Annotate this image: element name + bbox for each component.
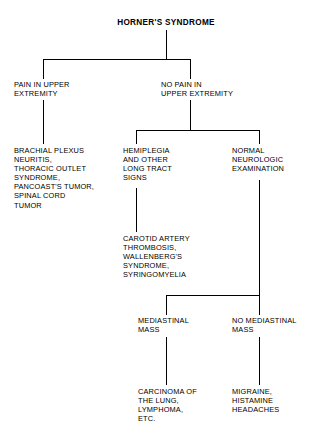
node-no-mediastinal-mass: NO MEDIASTINAL MASS: [232, 316, 327, 334]
node-carcinoma-of-the-lung: CARCINOMA OF THE LUNG, LYMPHOMA, ETC.: [138, 387, 233, 423]
connector-level3-left-drop: [166, 295, 167, 315]
node-no-pain-in-upper-extremity: NO PAIN IN UPPER EXTREMITY: [161, 80, 271, 98]
connector-nomediastinal-to-migraine: [259, 337, 260, 385]
node-carotid-artery-thrombosis: CAROTID ARTERY THROMBOSIS, WALLENBERG'S …: [123, 234, 233, 279]
node-mediastinal-mass: MEDIASTINAL MASS: [138, 316, 233, 334]
node-pain-in-upper-extremity: PAIN IN UPPER EXTREMITY: [14, 80, 124, 98]
connector-level3-bar: [166, 295, 260, 296]
connector-hemiplegia-to-carotid: [136, 188, 137, 232]
connector-normal-neuro-stem: [259, 180, 260, 295]
diagram-title: HORNER'S SYNDROME: [117, 18, 215, 28]
node-migraine-histamine-headaches: MIGRAINE, HISTAMINE HEADACHES: [232, 387, 327, 414]
connector-level1-left-drop: [43, 59, 44, 79]
node-brachial-plexus-neuritis: BRACHIAL PLEXUS NEURITIS, THORACIC OUTLE…: [14, 146, 129, 210]
node-hemiplegia-long-tract-signs: HEMIPLEGIA AND OTHER LONG TRACT SIGNS: [123, 146, 228, 182]
horners-syndrome-flowchart: HORNER'S SYNDROME PAIN IN UPPER EXTREMIT…: [0, 0, 327, 443]
connector-level2-left-drop: [136, 130, 137, 144]
connector-pain-to-brachial: [43, 100, 44, 144]
connector-nopain-stem: [190, 100, 191, 130]
connector-level2-bar: [136, 130, 260, 131]
connector-mediastinal-to-carcinoma: [166, 337, 167, 385]
connector-level3-right-drop: [259, 295, 260, 315]
connector-root-stem: [166, 30, 167, 59]
connector-level1-right-drop: [190, 59, 191, 79]
connector-level2-right-drop: [259, 130, 260, 144]
node-normal-neurologic-examination: NORMAL NEUROLOGIC EXAMINATION: [232, 146, 327, 173]
connector-level1-bar: [43, 59, 191, 60]
